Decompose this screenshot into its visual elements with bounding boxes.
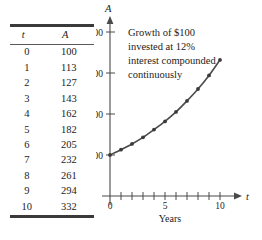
data-point-9 — [207, 74, 211, 78]
data-table: t A 010011132127314341625182620572328261… — [10, 24, 94, 218]
table-row: 3143 — [10, 91, 94, 106]
cell-a: 162 — [44, 106, 94, 121]
cell-t: 0 — [10, 45, 44, 60]
x-tick-label-5: 5 — [163, 201, 168, 211]
data-point-2 — [130, 142, 134, 146]
data-point-4 — [152, 128, 156, 132]
annotation-line-4: continuously — [128, 69, 183, 80]
x-tick-label-10: 10 — [215, 201, 225, 211]
cell-a: 261 — [44, 168, 94, 183]
cell-t: 7 — [10, 153, 44, 168]
cell-t: 5 — [10, 122, 44, 137]
table-row: 4162 — [10, 106, 94, 121]
cell-t: 4 — [10, 106, 44, 121]
cell-t: 10 — [10, 199, 44, 214]
cell-a: 332 — [44, 199, 94, 214]
cell-t: 3 — [10, 91, 44, 106]
table-header-row: t A — [10, 27, 94, 44]
cell-a: 100 — [44, 45, 94, 60]
data-point-7 — [185, 99, 189, 103]
cell-t: 9 — [10, 184, 44, 199]
cell-a: 127 — [44, 75, 94, 90]
cell-a: 232 — [44, 153, 94, 168]
data-point-8 — [196, 87, 200, 91]
table-row: 7232 — [10, 153, 94, 168]
growth-chart: A t Years $400 300 200 100 0 5 10 — [96, 0, 262, 240]
table-grid: t A — [10, 27, 94, 44]
cell-t: 8 — [10, 168, 44, 183]
cell-a: 182 — [44, 122, 94, 137]
cell-t: 2 — [10, 75, 44, 90]
x-tick-label-0: 0 — [108, 201, 113, 211]
table-bottom-rule — [10, 215, 94, 218]
data-point-5 — [163, 119, 167, 123]
y-tick-label-300: 300 — [96, 69, 103, 79]
annotation-line-2: invested at 12% — [128, 41, 195, 52]
y-axis-arrowhead — [107, 16, 114, 24]
cell-t: 1 — [10, 60, 44, 75]
annotation-line-3: interest compounded — [128, 55, 217, 66]
x-axis-arrowhead — [234, 193, 242, 200]
table-row: 1113 — [10, 60, 94, 75]
cell-a: 294 — [44, 184, 94, 199]
data-point-1 — [119, 148, 123, 152]
column-header-t: t — [10, 27, 36, 44]
table-body: 0100111321273143416251826205723282619294… — [10, 45, 94, 215]
y-tick-label-200: 200 — [96, 110, 103, 120]
table-row: 9294 — [10, 184, 94, 199]
table-row: 5182 — [10, 122, 94, 137]
annotation-line-1: Growth of $100 — [128, 27, 195, 38]
data-point-0 — [108, 153, 112, 157]
x-axis-caption: Years — [159, 213, 181, 224]
cell-a: 143 — [44, 91, 94, 106]
data-point-6 — [174, 110, 178, 114]
table-row: 10332 — [10, 199, 94, 214]
cell-t: 6 — [10, 137, 44, 152]
data-point-10 — [218, 58, 222, 62]
table-row: 6205 — [10, 137, 94, 152]
cell-a: 113 — [44, 60, 94, 75]
y-tick-label-100: 100 — [96, 151, 103, 161]
table-row: 0100 — [10, 45, 94, 60]
data-point-3 — [141, 135, 145, 139]
table-header: t A — [10, 27, 94, 44]
x-axis-label: t — [246, 191, 250, 202]
cell-a: 205 — [44, 137, 94, 152]
table-body-grid: 0100111321273143416251826205723282619294… — [10, 45, 94, 215]
y-axis-label: A — [104, 3, 112, 14]
table-row: 8261 — [10, 168, 94, 183]
y-tick-label-400: $400 — [96, 28, 103, 38]
table-row: 2127 — [10, 75, 94, 90]
figure-compound-interest: t A 010011132127314341625182620572328261… — [0, 0, 262, 240]
column-header-a: A — [36, 27, 94, 44]
